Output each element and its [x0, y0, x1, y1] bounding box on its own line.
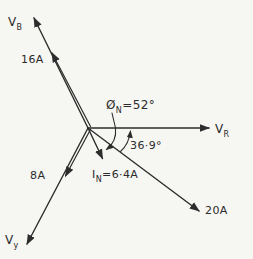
vector-iy-8a — [66, 130, 91, 177]
label-phi-n: ØN=52° — [106, 98, 155, 115]
angle-leader-phi-n — [107, 113, 116, 150]
label-vr: VR — [215, 122, 230, 139]
label-vb: VB — [8, 15, 23, 32]
phasor-diagram-page: VB 16A VR Vy 8A 20A IN=6·4A ØN=52° 36·9° — [0, 0, 253, 259]
vector-vy — [27, 128, 88, 244]
label-ir-20a: 20A — [205, 204, 228, 217]
vector-vb — [34, 18, 88, 128]
label-in-value: =6·4A — [102, 168, 138, 181]
label-vr-sub: R — [224, 130, 230, 139]
label-phi-main: Ø — [106, 98, 116, 112]
label-vy: Vy — [5, 233, 19, 250]
vector-ib-16a — [52, 53, 91, 127]
label-in: IN=6·4A — [92, 168, 138, 184]
phasor-diagram: VB 16A VR Vy 8A 20A IN=6·4A ØN=52° 36·9° — [0, 0, 253, 259]
label-vy-sub: y — [14, 241, 19, 250]
label-angle-36-9: 36·9° — [130, 139, 162, 152]
label-vb-sub: B — [17, 23, 23, 32]
label-ib-16a: 16A — [21, 53, 44, 66]
label-phi-value: =52° — [122, 98, 155, 112]
angle-arc-36-9 — [121, 131, 131, 152]
label-iy-8a: 8A — [30, 169, 45, 182]
